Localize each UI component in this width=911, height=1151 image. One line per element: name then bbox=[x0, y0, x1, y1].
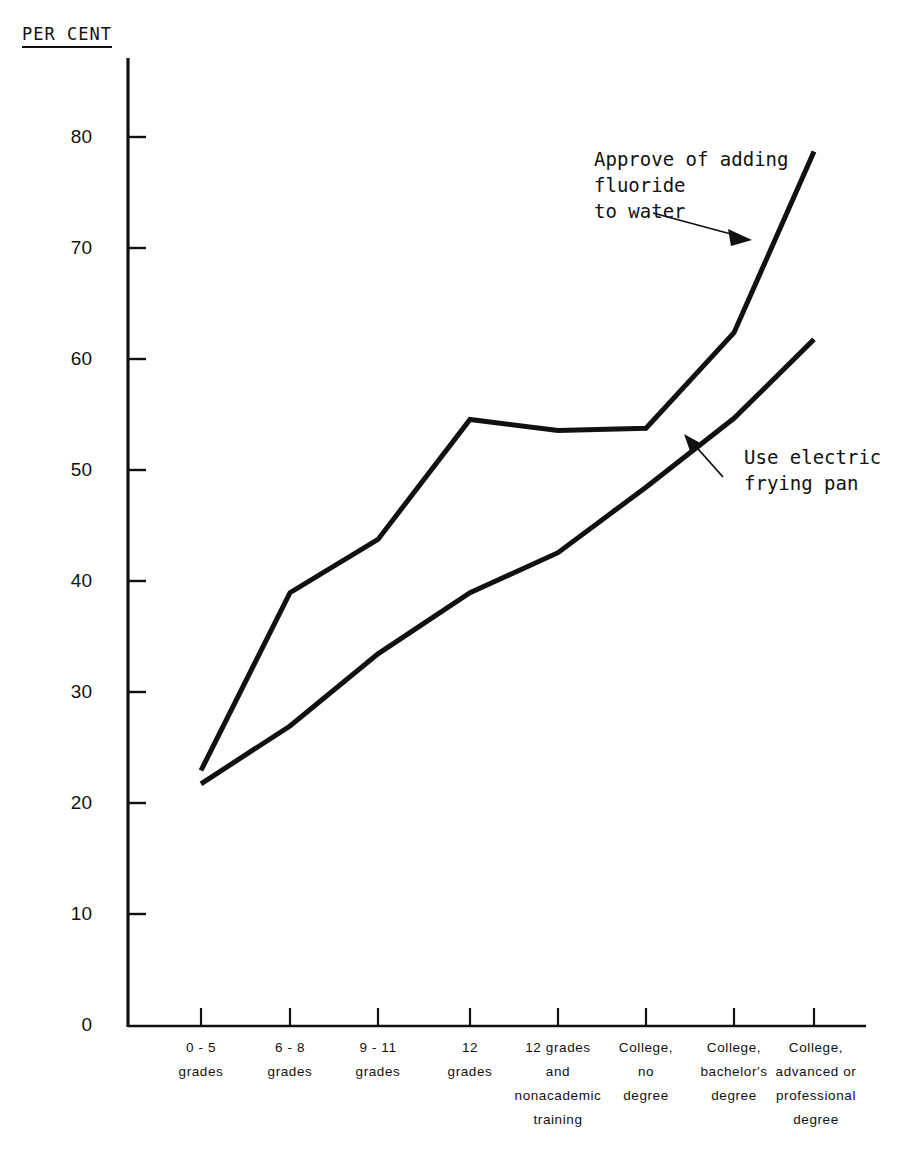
x-tick-label-7-line-1: advanced or bbox=[756, 1060, 876, 1084]
annotation-frying-pan-text: Use electric bbox=[744, 446, 881, 468]
x-tick-label-7-line-2: professional bbox=[756, 1084, 876, 1108]
series-line-fluoride bbox=[201, 152, 814, 771]
annotation-frying-pan-text-2: frying pan bbox=[744, 472, 858, 494]
series-line-frying-pan bbox=[201, 339, 814, 783]
annotation-fluoride-text-2: fluoride bbox=[594, 174, 686, 196]
annotation-frying-pan: Use electricfrying pan bbox=[744, 444, 881, 496]
x-tick-label-7-line-0: College, bbox=[756, 1036, 876, 1060]
annotation-fluoride-text-3: to water bbox=[594, 200, 686, 222]
x-tick-label-7: College, advanced or professional degree bbox=[756, 1036, 876, 1132]
y-axis-ticks bbox=[128, 137, 146, 914]
annotation-fluoride-text: Approve of adding bbox=[594, 148, 788, 170]
x-tick-label-4-line-3: training bbox=[498, 1108, 618, 1132]
x-axis-ticks bbox=[201, 1008, 814, 1026]
chart-figure: PER CENT 80 70 60 50 40 30 20 10 0 bbox=[0, 0, 911, 1151]
annotation-fluoride: Approve of addingfluorideto water bbox=[594, 146, 788, 224]
x-tick-label-7-line-3: degree bbox=[756, 1108, 876, 1132]
